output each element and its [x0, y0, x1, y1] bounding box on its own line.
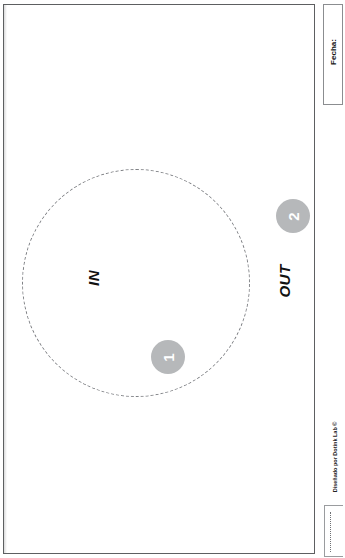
- station-marker-1-number: 1: [160, 353, 177, 361]
- station-marker-2-number: 2: [285, 212, 302, 220]
- zone-label-out: OUT: [274, 250, 296, 312]
- designer-credit: Diseñado por Dotink Lab ©: [328, 420, 342, 494]
- zone-label-in: IN: [83, 250, 105, 306]
- station-marker-2: 2: [276, 199, 310, 233]
- date-field-label: Fecha:: [325, 23, 343, 81]
- side-strip: Fecha: Diseñado por Dotink Lab ©: [322, 0, 345, 558]
- footer-tick-marks: [330, 512, 332, 552]
- footer-box: [324, 505, 343, 557]
- station-marker-1: 1: [151, 340, 185, 374]
- activity-zone-circle: [22, 169, 250, 397]
- diagram-canvas: IN OUT 1 2: [4, 5, 314, 553]
- document-page: IN OUT 1 2 Fecha: Diseñado por Dotink La…: [0, 0, 345, 558]
- date-field-box[interactable]: Fecha:: [323, 4, 343, 105]
